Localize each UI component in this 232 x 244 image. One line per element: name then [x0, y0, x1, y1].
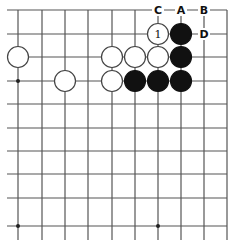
- board-grid: [7, 10, 227, 240]
- black-stone: [171, 71, 192, 92]
- white-stone: [102, 47, 123, 68]
- star-point: [156, 224, 160, 228]
- white-stone: [148, 47, 169, 68]
- point-label-b: B: [200, 4, 208, 17]
- black-stone: [148, 71, 169, 92]
- go-board: CABD 1: [0, 0, 232, 244]
- white-stone: [125, 47, 146, 68]
- black-stone: [171, 47, 192, 68]
- white-stone: [55, 71, 76, 92]
- white-stone: [8, 47, 29, 68]
- white-stone: [102, 71, 123, 92]
- star-point: [16, 79, 20, 83]
- point-label-c: C: [154, 4, 162, 17]
- black-stone: [125, 71, 146, 92]
- move-number-label: 1: [155, 28, 162, 41]
- point-label-d: D: [199, 28, 208, 41]
- point-label-a: A: [177, 4, 186, 17]
- black-stone: [171, 24, 192, 45]
- star-point: [16, 224, 20, 228]
